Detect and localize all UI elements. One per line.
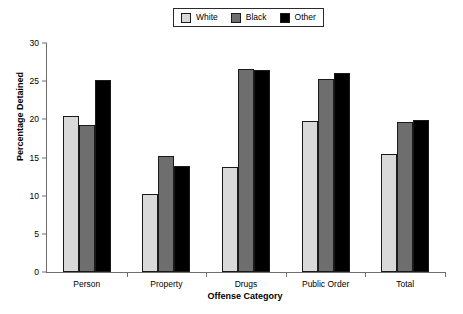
bar-white-person [63,116,79,272]
legend-swatch-other-icon [280,13,290,23]
bar-other-drugs [254,70,270,272]
legend-item-white: White [181,13,218,23]
bar-black-drugs [238,69,254,272]
y-axis-tick-label: 20 [30,115,39,124]
legend-swatch-white-icon [181,13,191,23]
bar-white-total [381,154,397,272]
bar-group: Total [365,43,445,272]
bar-chart: White Black Other 051015202530PersonProp… [0,0,463,314]
y-axis-tick-label: 15 [30,153,39,162]
y-axis-tick-label: 25 [30,77,39,86]
bar-black-public-order [318,79,334,272]
bar-other-person [95,80,111,272]
x-axis-tick-label: Person [73,280,100,289]
y-axis-tick-label: 0 [34,268,39,277]
bar-group: Property [127,43,207,272]
x-axis-tick [127,272,128,277]
legend-item-other: Other [280,13,316,23]
plot-area: 051015202530PersonPropertyDrugsPublic Or… [46,43,445,273]
legend-swatch-black-icon [231,13,241,23]
bar-white-drugs [222,167,238,272]
bar-group: Person [47,43,127,272]
bar-black-person [79,125,95,272]
y-axis-tick-label: 30 [30,39,39,48]
legend-label-other: Other [295,13,316,22]
legend-label-white: White [196,13,218,22]
chart-legend: White Black Other [173,8,324,27]
y-axis-tick-label: 5 [34,230,39,239]
x-axis-tick [365,272,366,277]
x-axis-tick [286,272,287,277]
x-axis-tick [206,272,207,277]
bar-other-property [174,166,190,272]
y-axis-tick-label: 10 [30,191,39,200]
legend-label-black: Black [246,13,267,22]
y-axis-title: Percentage Detained [16,17,25,217]
x-axis-tick-label: Total [396,280,414,289]
x-axis-tick-label: Drugs [235,280,258,289]
bar-group: Public Order [286,43,366,272]
bar-black-total [397,122,413,272]
bar-white-property [142,194,158,272]
bar-group: Drugs [206,43,286,272]
bar-white-public-order [302,121,318,272]
bar-other-public-order [334,73,350,272]
x-axis-tick-label: Property [150,280,182,289]
legend-item-black: Black [231,13,267,23]
bar-black-property [158,156,174,272]
x-axis-tick [445,272,446,277]
x-axis-title: Offense Category [46,292,444,301]
bar-other-total [413,120,429,272]
x-axis-tick-label: Public Order [302,280,349,289]
